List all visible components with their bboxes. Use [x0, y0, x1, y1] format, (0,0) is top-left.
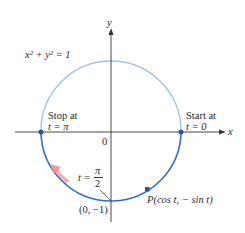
start-point	[179, 130, 184, 135]
y-axis-label: y	[107, 17, 112, 28]
x-axis-label: x	[228, 126, 233, 137]
p-point-label: P(cos t, − sin t)	[147, 194, 213, 205]
stop-label-line2: t = π	[48, 121, 69, 132]
equation-label: x² + y² = 1	[25, 49, 71, 60]
equation-text: x² + y² = 1	[25, 49, 71, 60]
start-label-line1: Start at	[186, 110, 216, 121]
p-point	[145, 187, 150, 192]
x-axis-arrow-icon	[219, 130, 226, 135]
t-label-numerator: π	[95, 165, 100, 176]
leader-line	[100, 190, 110, 200]
t-label-denominator: 2	[95, 178, 100, 189]
y-axis-arrow-icon	[109, 28, 114, 35]
t-label-prefix: t =	[78, 172, 91, 183]
start-label-line2: t = 0	[186, 121, 207, 132]
stop-label-line1: Stop at	[48, 110, 77, 121]
parametric-circle-diagram: x² + y² = 1 y x 0 Stop at t = π Start at…	[0, 0, 245, 233]
stop-point	[39, 130, 44, 135]
origin-label: 0	[102, 136, 107, 147]
bottom-point-label: (0, −1)	[79, 204, 108, 215]
